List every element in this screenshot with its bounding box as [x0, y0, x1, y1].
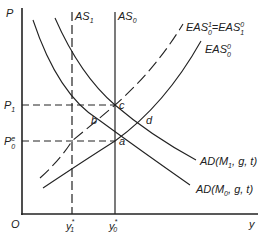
p1-label: P1	[4, 99, 15, 113]
y1-star-label: y*1	[65, 218, 75, 233]
x-axis-label: y	[248, 218, 256, 230]
eas-new-label: EAS10=EAS01	[186, 21, 244, 36]
point-b-label: b	[91, 114, 97, 126]
y0-star-label: y*0	[108, 218, 118, 233]
eas0-label: EAS00	[205, 43, 231, 58]
point-d-label: d	[146, 114, 153, 126]
as-ad-diagram: P AS1 AS0 EAS10=EAS01 EAS00 P1 Pe0 c b d…	[0, 0, 272, 234]
point-c-label: c	[119, 99, 125, 111]
p0e-label: Pe0	[4, 135, 15, 150]
eas0-curve	[43, 41, 201, 188]
y-axis-label: P	[6, 7, 14, 19]
eas-new-curve	[40, 24, 183, 178]
ad-m0-label: AD(M0, g, t)	[195, 183, 253, 197]
as1-label: AS1	[74, 10, 94, 24]
as0-label: AS0	[117, 10, 137, 24]
point-a-label: a	[119, 135, 125, 147]
ad-m1-label: AD(M1, g, t)	[199, 155, 257, 169]
origin-label: O	[11, 218, 20, 230]
